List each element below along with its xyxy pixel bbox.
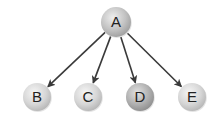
edges-group xyxy=(48,32,181,86)
nodes-group: ABCDE xyxy=(23,7,207,112)
edge-a-c xyxy=(93,36,111,83)
node-c: C xyxy=(74,83,103,112)
node-b: B xyxy=(23,83,52,112)
edge-a-b xyxy=(48,32,105,86)
node-label: A xyxy=(111,13,121,30)
edge-a-e xyxy=(127,33,182,87)
node-label: C xyxy=(83,88,94,105)
node-label: D xyxy=(135,88,146,105)
node-label: E xyxy=(187,88,197,105)
node-a: A xyxy=(101,7,132,38)
node-d: D xyxy=(126,83,155,112)
node-label: B xyxy=(32,88,42,105)
node-e: E xyxy=(178,83,207,112)
edge-a-d xyxy=(121,36,136,82)
tree-diagram: ABCDE xyxy=(0,0,219,124)
